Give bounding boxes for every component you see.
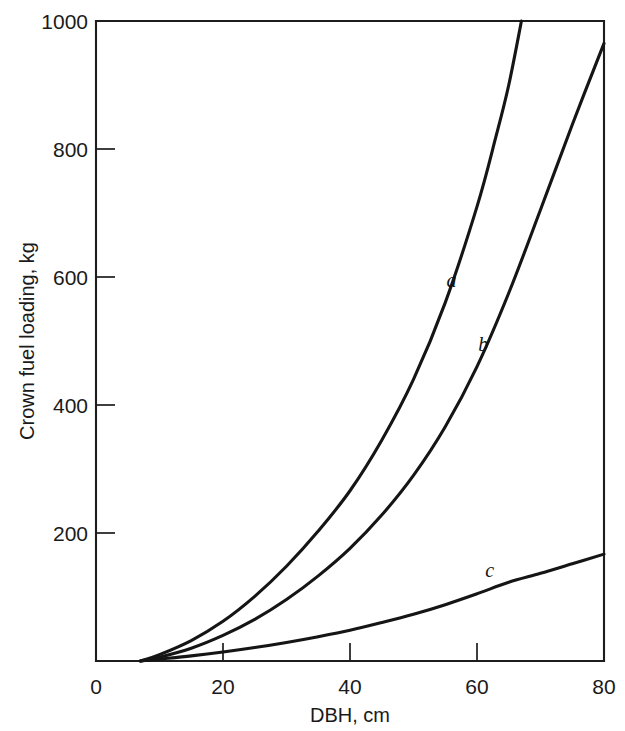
y-tick-label-200: 200 (53, 522, 88, 545)
x-tick-label-0: 0 (90, 675, 102, 698)
chart-figure: 1000 800 600 400 200 0 20 40 60 80 DBH, … (0, 0, 625, 731)
x-axis-title: DBH, cm (310, 704, 390, 726)
y-axis-title: Crown fuel loading, kg (16, 242, 38, 440)
axis-frame (96, 21, 604, 661)
curve-b (140, 43, 604, 661)
x-tick-label-80: 80 (592, 675, 615, 698)
curve-c (140, 554, 604, 661)
x-tick-label-60: 60 (465, 675, 488, 698)
curve-label-a: a (447, 269, 457, 291)
y-axis-ticks (96, 149, 115, 533)
y-tick-label-400: 400 (53, 394, 88, 417)
x-axis-tick-labels: 0 20 40 60 80 (90, 675, 616, 698)
x-tick-label-20: 20 (211, 675, 234, 698)
y-axis-tick-labels: 1000 800 600 400 200 (41, 10, 88, 545)
y-tick-label-800: 800 (53, 138, 88, 161)
curve-labels: a b c (447, 269, 495, 582)
curve-label-b: b (478, 333, 488, 355)
x-tick-label-40: 40 (338, 675, 361, 698)
crown-fuel-loading-chart: 1000 800 600 400 200 0 20 40 60 80 DBH, … (0, 0, 625, 731)
y-tick-label-600: 600 (53, 266, 88, 289)
data-curves (140, 21, 604, 661)
y-tick-label-1000: 1000 (41, 10, 88, 33)
curve-label-c: c (485, 559, 494, 581)
